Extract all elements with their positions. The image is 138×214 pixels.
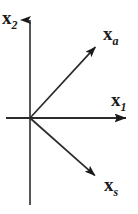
vector-label-xa: xa <box>103 24 119 43</box>
axis-label-x1-symbol: x <box>111 89 121 110</box>
axis-label-x2: x2 <box>2 8 18 27</box>
vector-label-xs: xs <box>104 175 118 194</box>
vector-xs-line <box>30 118 95 175</box>
axis-label-x2-symbol: x <box>2 7 12 28</box>
vector-diagram-figure: x2 xa x1 xs <box>0 0 138 214</box>
vector-label-xa-symbol: x <box>103 23 113 44</box>
vector-label-xs-subscript: s <box>114 185 119 199</box>
axis-label-x2-subscript: 2 <box>12 18 18 32</box>
vector-label-xs-symbol: x <box>104 174 114 195</box>
axis-label-x1-subscript: 1 <box>121 100 127 114</box>
axis-label-x1: x1 <box>111 90 127 109</box>
vector-xa-line <box>30 47 95 118</box>
vector-label-xa-subscript: a <box>113 34 119 48</box>
